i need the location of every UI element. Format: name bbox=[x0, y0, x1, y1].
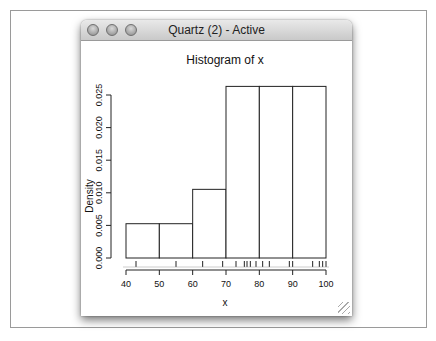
resize-grip[interactable] bbox=[338, 302, 350, 314]
y-tick-label: 0.005 bbox=[94, 214, 104, 237]
histogram-bar bbox=[226, 86, 259, 258]
y-tick-label: 0.025 bbox=[94, 84, 104, 107]
y-tick-label: 0.015 bbox=[94, 149, 104, 172]
quartz-window: Quartz (2) - Active Histogram of x Densi… bbox=[81, 20, 352, 316]
histogram-bar bbox=[293, 86, 326, 258]
histogram-bar bbox=[259, 86, 292, 258]
title-bar[interactable]: Quartz (2) - Active bbox=[81, 20, 352, 41]
x-tick-label: 70 bbox=[221, 279, 231, 289]
y-tick-label: 0.010 bbox=[94, 182, 104, 205]
chart-title: Histogram of x bbox=[186, 53, 263, 67]
x-axis-label: x bbox=[223, 297, 228, 308]
x-tick-label: 50 bbox=[154, 279, 164, 289]
histogram-bar bbox=[126, 224, 159, 258]
histogram-bar bbox=[193, 189, 226, 258]
y-tick-label: 0.020 bbox=[94, 116, 104, 139]
x-tick-label: 80 bbox=[254, 279, 264, 289]
histogram-plot: Histogram of x Density x 0.0000.0050.010… bbox=[81, 41, 352, 316]
x-tick-label: 60 bbox=[188, 279, 198, 289]
x-tick-label: 40 bbox=[121, 279, 131, 289]
y-tick-label: 0.000 bbox=[94, 247, 104, 270]
x-tick-label: 100 bbox=[318, 279, 333, 289]
window-title: Quartz (2) - Active bbox=[81, 23, 352, 37]
histogram-bar bbox=[159, 224, 192, 258]
x-tick-label: 90 bbox=[288, 279, 298, 289]
